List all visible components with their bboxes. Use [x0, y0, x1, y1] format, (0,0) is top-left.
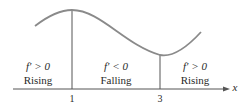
tick-label-1: 1: [66, 93, 78, 104]
region-1-condition: f′ > 0: [18, 60, 58, 72]
function-curve: [35, 10, 201, 55]
x-axis-arrow-icon: [223, 87, 230, 92]
region-1-behavior: Rising: [18, 74, 58, 86]
region-3-condition: f′ > 0: [175, 60, 215, 72]
tick-label-3: 3: [154, 93, 166, 104]
x-axis-label: x: [231, 81, 239, 93]
region-2-behavior: Falling: [96, 74, 136, 86]
diagram-canvas: [0, 0, 241, 109]
region-3-behavior: Rising: [175, 74, 215, 86]
region-2-condition: f′ < 0: [96, 60, 136, 72]
